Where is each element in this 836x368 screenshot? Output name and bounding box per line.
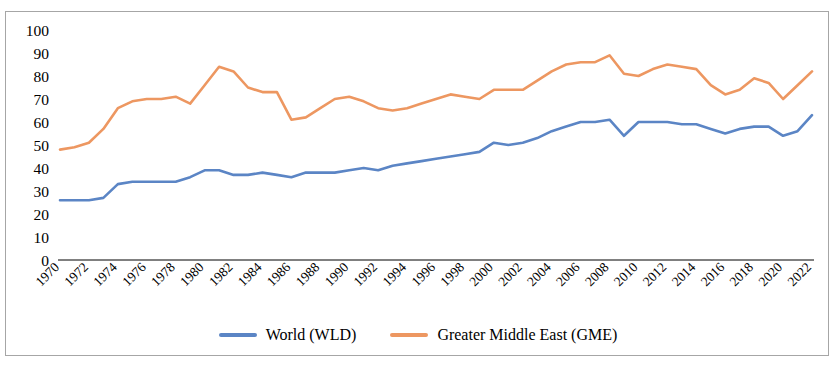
data-series-group: [60, 55, 812, 200]
x-tick-2006: 2006: [553, 259, 583, 289]
x-tick-1980: 1980: [177, 259, 207, 289]
x-tick-1976: 1976: [119, 259, 149, 289]
line-chart-svg: 0102030405060708090100 19701972197419761…: [0, 0, 836, 368]
chart-container: 0102030405060708090100 19701972197419761…: [0, 0, 836, 368]
legend-swatch-world: [219, 333, 257, 337]
x-tick-1974: 1974: [90, 259, 120, 289]
x-tick-1988: 1988: [293, 259, 323, 289]
y-tick-60: 60: [34, 114, 50, 131]
y-tick-20: 20: [34, 206, 50, 223]
x-tick-1998: 1998: [437, 259, 467, 289]
x-tick-2020: 2020: [755, 259, 785, 289]
chart-legend: World (WLD) Greater Middle East (GME): [0, 326, 836, 344]
x-tick-2004: 2004: [524, 259, 554, 289]
y-tick-30: 30: [34, 183, 50, 200]
y-tick-70: 70: [34, 91, 50, 108]
x-tick-2000: 2000: [466, 259, 496, 289]
legend-item-greater-middle-east: Greater Middle East (GME): [390, 326, 617, 344]
series-line-greater-middle-east: [60, 55, 812, 149]
x-tick-2014: 2014: [669, 259, 699, 289]
x-tick-1994: 1994: [379, 259, 409, 289]
x-tick-2008: 2008: [582, 259, 612, 289]
x-tick-2018: 2018: [727, 259, 757, 289]
legend-swatch-greater-middle-east: [390, 333, 428, 337]
x-tick-1984: 1984: [235, 259, 265, 289]
y-tick-10: 10: [34, 229, 50, 246]
x-tick-1990: 1990: [322, 259, 352, 289]
x-tick-2022: 2022: [784, 260, 814, 290]
x-tick-1972: 1972: [61, 260, 91, 290]
series-line-world: [60, 115, 812, 200]
x-tick-2016: 2016: [698, 259, 728, 289]
y-tick-40: 40: [34, 160, 50, 177]
x-tick-1970: 1970: [32, 259, 62, 289]
plot-area: 0102030405060708090100 19701972197419761…: [0, 0, 836, 368]
y-tick-100: 100: [26, 22, 50, 39]
y-tick-50: 50: [34, 137, 50, 154]
x-tick-2010: 2010: [611, 259, 641, 289]
legend-label-world: World (WLD): [266, 326, 357, 344]
x-tick-1992: 1992: [351, 260, 381, 290]
legend-item-world: World (WLD): [219, 326, 357, 344]
y-tick-80: 80: [34, 68, 50, 85]
x-tick-1978: 1978: [148, 259, 178, 289]
x-tick-2002: 2002: [495, 260, 525, 290]
y-axis-tick-labels: 0102030405060708090100: [26, 22, 50, 269]
x-tick-1996: 1996: [408, 259, 438, 289]
legend-label-greater-middle-east: Greater Middle East (GME): [437, 326, 617, 344]
x-tick-1986: 1986: [264, 259, 294, 289]
x-tick-1982: 1982: [206, 260, 236, 290]
y-tick-90: 90: [34, 45, 50, 62]
x-tick-2012: 2012: [640, 260, 670, 290]
x-axis-tick-labels: 1970197219741976197819801982198419861988…: [32, 259, 814, 289]
